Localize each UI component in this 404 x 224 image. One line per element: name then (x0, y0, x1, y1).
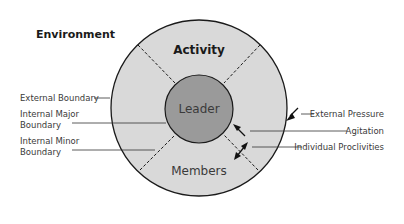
members-label: Members (171, 164, 227, 178)
group-dynamics-diagram: Environment Activity Leader Members Exte… (0, 0, 404, 224)
leader-label: Leader (178, 102, 219, 116)
environment-label: Environment (36, 28, 115, 41)
internal-minor-label-1: Internal Minor (20, 136, 80, 146)
internal-minor-label-2: Boundary (20, 147, 61, 157)
internal-major-label-1: Internal Major (20, 109, 80, 119)
activity-label: Activity (173, 43, 225, 57)
external-pressure-label: External Pressure (310, 109, 384, 119)
internal-major-label-2: Boundary (20, 120, 61, 130)
external-pressure-arrow-icon (286, 108, 298, 121)
individual-proclivities-label: Individual Proclivities (294, 142, 384, 152)
external-boundary-label: External Boundary (20, 93, 99, 103)
agitation-label: Agitation (346, 126, 384, 136)
